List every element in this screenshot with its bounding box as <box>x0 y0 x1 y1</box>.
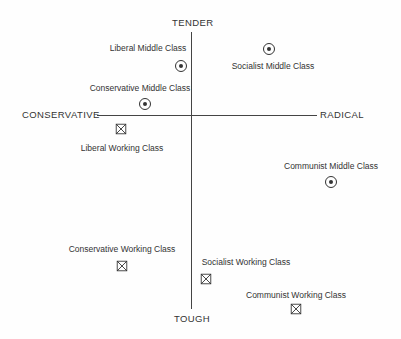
axis-label-bottom: TOUGH <box>174 313 210 324</box>
crossed-square-icon <box>201 274 212 285</box>
vertical-axis-tender-tough <box>191 32 192 309</box>
ideology-diagram: TENDER TOUGH CONSERVATIVE RADICAL Libera… <box>0 0 401 339</box>
circled-dot-icon <box>139 98 151 110</box>
circled-dot-icon <box>263 43 275 55</box>
point-label-liberal-middle: Liberal Middle Class <box>110 43 187 53</box>
circled-dot-icon <box>325 176 337 188</box>
crossed-square-icon <box>117 261 128 272</box>
crossed-square-icon <box>116 124 127 135</box>
point-label-liberal-working: Liberal Working Class <box>81 143 164 153</box>
axis-label-left: CONSERVATIVE <box>22 109 100 120</box>
point-label-socialist-middle: Socialist Middle Class <box>232 61 315 71</box>
point-label-communist-middle: Communist Middle Class <box>284 161 378 171</box>
horizontal-axis-conservative-radical <box>97 115 317 116</box>
axis-label-top: TENDER <box>172 17 213 28</box>
point-label-communist-working: Communist Working Class <box>246 290 346 300</box>
axis-label-right: RADICAL <box>320 109 364 120</box>
point-label-socialist-working: Socialist Working Class <box>202 257 291 267</box>
circled-dot-icon <box>175 60 187 72</box>
crossed-square-icon <box>291 304 302 315</box>
point-label-conservative-middle: Conservative Middle Class <box>90 83 191 93</box>
point-label-conservative-working: Conservative Working Class <box>69 244 176 254</box>
